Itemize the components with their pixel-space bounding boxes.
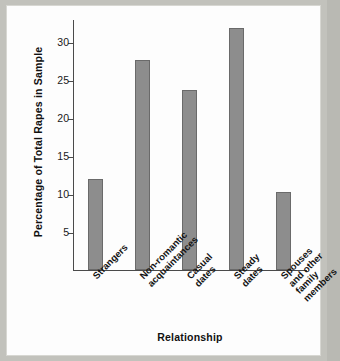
chart-canvas: Percentage of Total Rapes in Sample 5101…	[7, 6, 320, 355]
y-axis-title: Percentage of Total Rapes in Sample	[32, 27, 44, 257]
y-tick-label: 30	[57, 36, 69, 48]
x-axis-title: Relationship	[73, 331, 307, 343]
y-tick-label: 20	[57, 112, 69, 124]
y-tick-label: 25	[57, 74, 69, 86]
y-tick-label: 5	[63, 226, 69, 238]
bar	[135, 60, 150, 270]
plot-area: 51015202530 StrangersNon-romanticacquain…	[73, 20, 307, 271]
y-tick-label: 10	[57, 188, 69, 200]
y-axis-line	[73, 20, 74, 271]
chart-plate: Percentage of Total Rapes in Sample 5101…	[7, 6, 320, 355]
bar	[276, 192, 291, 270]
bar	[88, 179, 103, 270]
bar	[229, 28, 244, 270]
y-tick-label: 15	[57, 150, 69, 162]
